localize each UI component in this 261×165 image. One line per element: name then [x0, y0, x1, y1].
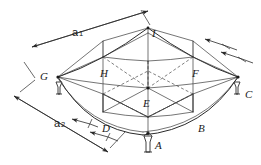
point-label-c: C	[245, 88, 253, 100]
dimension-right-upper	[205, 39, 237, 50]
node-dot-c	[236, 75, 239, 78]
anchor-icon-g	[56, 82, 62, 94]
dimension-a1: a 1	[24, 10, 150, 78]
grid-mesh-nw-3	[103, 33, 148, 57]
point-label-b: B	[198, 122, 205, 134]
hyperbolic-paraboloid-diagram: a 1 a 2	[0, 0, 261, 165]
plan-edge-lower-right	[148, 94, 193, 117]
point-label-h: H	[99, 67, 109, 79]
dimension-right-upper-tail	[226, 46, 237, 50]
grid-line-ridge-lower-left	[103, 112, 148, 117]
dimension-d-upper-tail	[90, 124, 98, 127]
dimension-a2-label: a	[54, 117, 61, 129]
figure-root: a 1 a 2	[0, 0, 261, 165]
grid-line-ridge-upper-right	[148, 57, 193, 61]
dimension-right-lower-tail	[242, 59, 253, 63]
anchor-icon-c	[234, 82, 240, 94]
dimension-a1-subscript: 1	[79, 29, 83, 38]
node-dot-i	[147, 27, 150, 30]
dimension-a1-ext-right	[141, 10, 150, 25]
anchor-icon-g-shape	[56, 82, 62, 94]
dimension-right-lower	[221, 52, 253, 63]
dimension-a1-ext-left	[24, 62, 35, 78]
edge-curve-g-a-outer	[58, 77, 143, 135]
plan-edge-right-up	[193, 41, 238, 77]
point-label-g: G	[40, 70, 48, 82]
grid-mesh-hidden-1	[103, 57, 148, 88]
dimension-a2-ext-top	[20, 80, 35, 92]
dimension-d-lower-tail	[108, 137, 118, 141]
dimension-a2-ext-bottom	[110, 132, 125, 148]
arrow-icon-d-upper	[72, 119, 90, 124]
dimension-d-upper	[72, 119, 98, 128]
dimension-a2-subscript: 2	[61, 120, 65, 129]
grid-mesh-nw-1	[103, 88, 148, 112]
grid-mesh-ne-1	[148, 88, 193, 112]
grid-mesh-ne-2	[193, 57, 238, 77]
grid-mesh-hidden-5	[103, 71, 148, 94]
node-dot-e	[146, 86, 149, 89]
dimension-a1-label: a	[72, 26, 79, 38]
grid-line-ridge-lower-right	[148, 112, 193, 117]
anchor-icon-a-shape	[144, 136, 152, 152]
grid-mesh-nw-4	[58, 57, 103, 77]
dimension-a2: a 2	[14, 80, 125, 152]
anchor-icon-a	[144, 136, 152, 152]
arrow-icon-right-lower	[221, 52, 242, 59]
plan-edge-left-up	[58, 41, 103, 77]
anchor-icon-c-shape	[234, 82, 240, 94]
point-label-i: I	[151, 27, 157, 39]
node-dot-g	[56, 75, 59, 78]
plan-edge-left-down	[58, 77, 103, 94]
point-label-a: A	[154, 139, 162, 151]
plan-edge-upper-left	[103, 28, 148, 41]
grid-line-ridge-upper-left	[103, 57, 148, 61]
point-label-e: E	[142, 97, 150, 109]
edge-curve-a-c-outer	[143, 77, 238, 135]
point-label-f: F	[191, 67, 199, 79]
grid-mesh-hidden-2	[148, 57, 193, 88]
point-label-d: D	[101, 122, 110, 134]
arrow-icon-a1-start	[32, 11, 148, 47]
edge-curve-a-c-inner	[143, 79, 237, 133]
plan-edge-lower-left	[103, 94, 148, 117]
arrow-icon-right-upper	[205, 39, 226, 46]
grid-mesh-hidden-6	[148, 71, 193, 94]
